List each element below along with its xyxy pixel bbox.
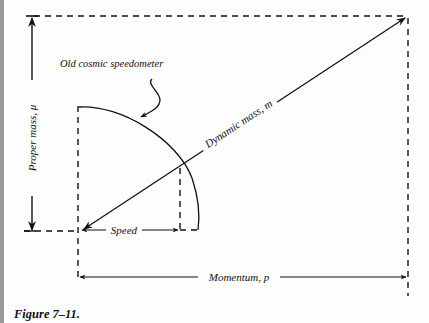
dynamic-mass-label: Dynamic mass, m: [202, 97, 275, 150]
figure-page: Proper mass, μ Old cosmic speedometer Dy…: [0, 0, 429, 323]
figure-caption: Figure 7–11.: [13, 307, 80, 321]
proper-mass-label: Proper mass, μ: [26, 104, 38, 172]
spacetime-mass-diagram: Proper mass, μ Old cosmic speedometer Dy…: [0, 0, 429, 323]
speed-label: Speed: [111, 224, 138, 236]
speedometer-label: Old cosmic speedometer: [60, 58, 164, 69]
speedometer-arc: [79, 107, 199, 230]
momentum-label: Momentum, p: [208, 271, 270, 283]
speedometer-pointer-arrow: [141, 79, 160, 117]
